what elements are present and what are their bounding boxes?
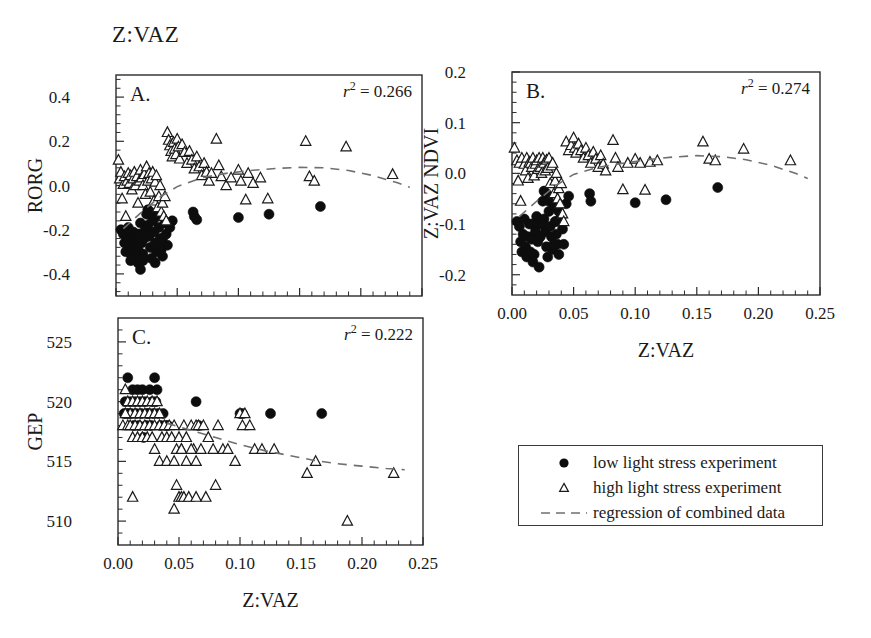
- open-triangle-icon: [535, 480, 593, 496]
- y-tick-label: 0.2: [49, 132, 70, 151]
- series-high-light: [113, 127, 397, 225]
- data-point-high-light: [513, 175, 523, 185]
- filled-circle-icon: [535, 455, 593, 471]
- data-point-high-light: [608, 135, 618, 145]
- y-tick-label: -0.2: [439, 266, 466, 285]
- data-point-high-light: [208, 444, 218, 454]
- data-point-high-light: [698, 136, 708, 146]
- y-axis-title: Z:VAZ NDVI: [420, 128, 442, 239]
- data-point-low-light: [559, 239, 569, 249]
- data-point-low-light: [554, 249, 564, 259]
- series-low-light: [512, 183, 723, 273]
- data-point-low-light: [315, 202, 325, 212]
- y-tick-label: 0.1: [445, 114, 466, 133]
- data-point-high-light: [216, 171, 226, 181]
- legend-item-regression: regression of combined data: [519, 500, 822, 525]
- data-point-high-light: [196, 444, 206, 454]
- legend-label-high-light: high light stress experiment: [593, 478, 781, 498]
- data-point-low-light: [150, 373, 160, 383]
- data-point-high-light: [133, 198, 143, 208]
- data-point-low-light: [233, 213, 243, 223]
- data-point-high-light: [214, 160, 224, 170]
- legend-label-low-light: low light stress experiment: [593, 453, 777, 473]
- data-point-low-light: [123, 373, 133, 383]
- data-point-high-light: [263, 193, 273, 203]
- x-axis-title: Z:VAZ: [242, 589, 298, 611]
- data-point-high-light: [241, 194, 251, 204]
- series-high-light: [118, 384, 399, 525]
- r2-annotation: r2 = 0.222: [344, 322, 413, 344]
- x-tick-label: 0.20: [347, 554, 377, 573]
- x-tick-label: 0.15: [682, 304, 712, 323]
- y-tick-label: 0.4: [49, 88, 71, 107]
- data-point-low-light: [586, 196, 596, 206]
- data-point-high-light: [211, 133, 221, 143]
- legend: low light stress experiment high light s…: [518, 445, 823, 526]
- figure-title: Z:VAZ: [112, 22, 179, 48]
- panel-letter: A.: [130, 82, 150, 106]
- data-point-high-light: [169, 456, 179, 466]
- x-tick-label: 0.25: [805, 304, 835, 323]
- x-axis-title: Z:VAZ: [638, 339, 694, 361]
- data-point-high-light: [203, 432, 213, 442]
- data-point-high-light: [169, 504, 179, 514]
- data-point-high-light: [210, 480, 220, 490]
- data-point-high-light: [245, 420, 255, 430]
- data-point-low-light: [191, 397, 201, 407]
- legend-item-low-light: low light stress experiment: [519, 450, 822, 475]
- data-point-low-light: [529, 249, 539, 259]
- data-point-high-light: [230, 456, 240, 466]
- data-point-low-light: [126, 256, 136, 266]
- data-point-low-light: [158, 234, 168, 244]
- series-low-light: [119, 373, 327, 443]
- data-point-high-light: [181, 432, 191, 442]
- x-tick-label: 0.20: [744, 304, 774, 323]
- panel-letter: B.: [526, 79, 545, 103]
- data-point-low-light: [549, 239, 559, 249]
- data-point-high-light: [255, 172, 265, 182]
- panel-b: 0.000.050.100.150.200.250.20.10.0-0.1-0.…: [396, 48, 871, 368]
- data-point-high-light: [113, 154, 123, 164]
- panel-b-svg: 0.000.050.100.150.200.250.20.10.0-0.1-0.…: [396, 48, 871, 368]
- x-tick-label: 0.15: [286, 554, 316, 573]
- y-axis-title: GEP: [24, 413, 46, 451]
- data-point-high-light: [213, 420, 223, 430]
- data-point-high-light: [171, 480, 181, 490]
- y-tick-label: 520: [47, 393, 73, 412]
- y-tick-label: -0.4: [43, 265, 70, 284]
- r2-value: = 0.222: [357, 325, 413, 344]
- legend-label-regression: regression of combined data: [593, 503, 785, 523]
- data-point-high-light: [785, 155, 795, 165]
- x-tick-label: 0.25: [408, 554, 438, 573]
- dashed-line-icon: [535, 506, 593, 520]
- data-point-high-light: [201, 492, 211, 502]
- data-point-low-light: [534, 262, 544, 272]
- x-tick-label: 0.10: [620, 304, 650, 323]
- panel-c: 0.000.050.100.150.200.25525520515510C.r2…: [0, 296, 440, 626]
- data-point-high-light: [181, 456, 191, 466]
- data-point-low-light: [630, 198, 640, 208]
- data-point-high-light: [301, 136, 311, 146]
- data-point-high-light: [127, 492, 137, 502]
- y-tick-label: 0.0: [445, 164, 466, 183]
- data-point-low-light: [713, 183, 723, 193]
- data-point-high-light: [509, 142, 519, 152]
- data-point-low-light: [192, 215, 202, 225]
- data-point-high-light: [269, 444, 279, 454]
- data-point-low-light: [150, 258, 160, 268]
- y-tick-label: -0.2: [43, 221, 70, 240]
- panel-letter: C.: [132, 325, 151, 349]
- data-point-high-light: [191, 492, 201, 502]
- y-axis-title: RORG: [24, 158, 46, 214]
- data-point-low-light: [264, 209, 274, 219]
- data-point-high-light: [302, 468, 312, 478]
- data-point-high-light: [162, 127, 172, 137]
- legend-item-high-light: high light stress experiment: [519, 475, 822, 500]
- y-tick-label: 0.0: [49, 177, 70, 196]
- data-point-high-light: [243, 168, 253, 178]
- data-point-low-light: [266, 409, 276, 419]
- data-point-low-light: [152, 385, 162, 395]
- data-point-high-light: [342, 516, 352, 526]
- x-tick-label: 0.00: [497, 304, 527, 323]
- data-point-high-light: [738, 143, 748, 153]
